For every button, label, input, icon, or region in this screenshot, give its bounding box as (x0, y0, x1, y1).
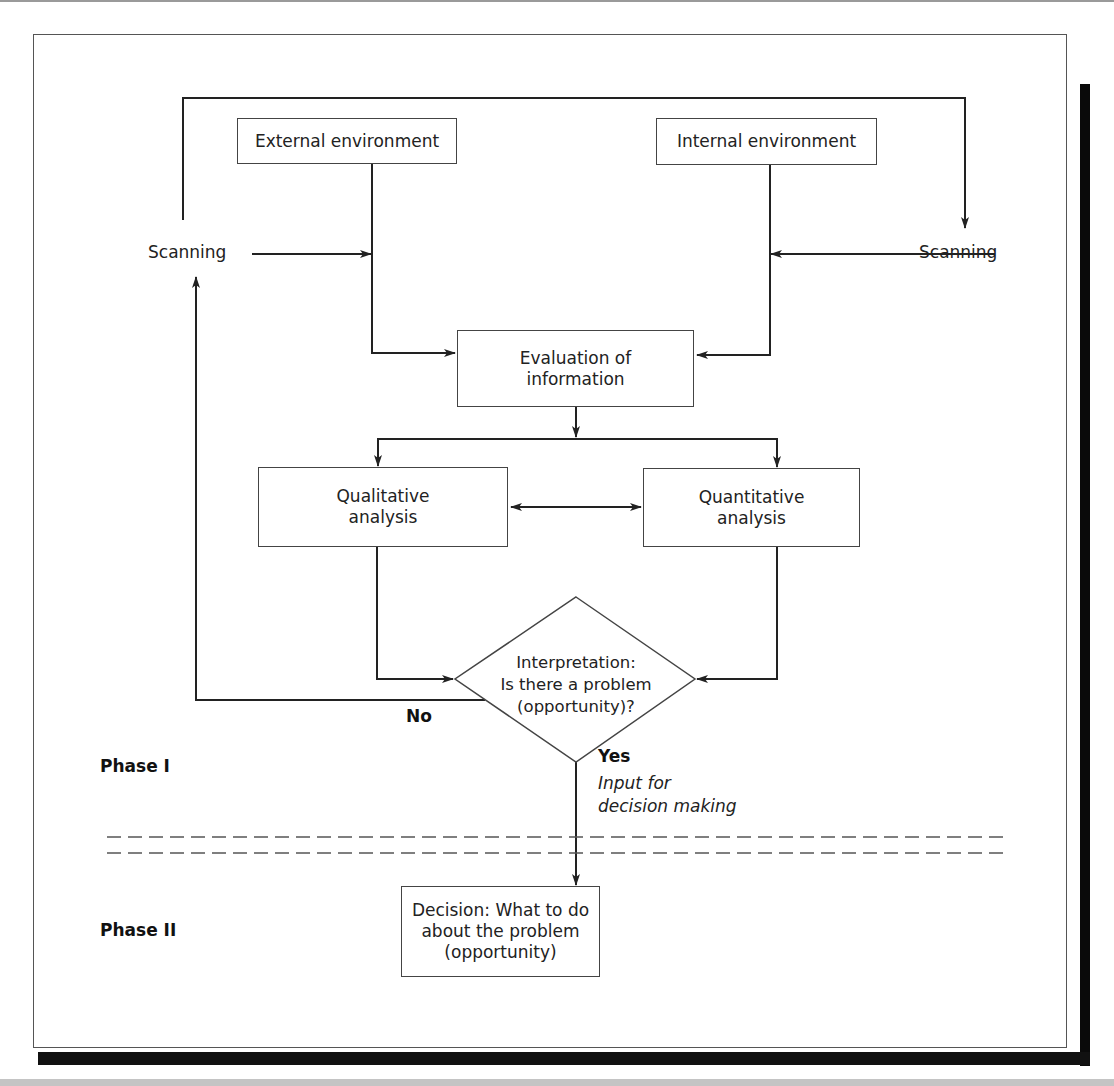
external-environment-box: External environment (237, 118, 457, 164)
interpretation-text: Interpretation: Is there a problem (oppo… (470, 652, 682, 718)
scanning-right-label: Scanning (919, 242, 997, 262)
quantitative-label-line2: analysis (717, 508, 786, 529)
qualitative-label-line2: analysis (349, 507, 418, 528)
no-label: No (406, 706, 432, 726)
internal-environment-box: Internal environment (656, 118, 877, 165)
qualitative-label-line1: Qualitative (336, 486, 429, 507)
decision-line1: Decision: What to do (412, 900, 589, 921)
decision-box: Decision: What to do about the problem (… (401, 886, 600, 977)
external-environment-label: External environment (255, 131, 439, 152)
interpretation-line1: Interpretation: (470, 652, 682, 674)
input-label-line1: Input for (598, 773, 671, 793)
quantitative-label-line1: Quantitative (699, 487, 805, 508)
evaluation-label-line2: information (526, 369, 624, 390)
yes-label: Yes (598, 746, 630, 766)
evaluation-label-line1: Evaluation of (520, 348, 632, 369)
evaluation-box: Evaluation of information (457, 330, 694, 407)
interpretation-line2: Is there a problem (470, 674, 682, 696)
input-label-line2: decision making (598, 796, 737, 816)
phase-1-label: Phase I (100, 756, 170, 776)
qualitative-analysis-box: Qualitative analysis (258, 467, 508, 547)
interpretation-line3: (opportunity)? (470, 696, 682, 718)
internal-environment-label: Internal environment (677, 131, 856, 152)
scanning-left-label: Scanning (148, 242, 226, 262)
decision-line2: about the problem (421, 921, 579, 942)
decision-line3: (opportunity) (444, 942, 556, 963)
quantitative-analysis-box: Quantitative analysis (643, 468, 860, 547)
phase-2-label: Phase II (100, 920, 176, 940)
